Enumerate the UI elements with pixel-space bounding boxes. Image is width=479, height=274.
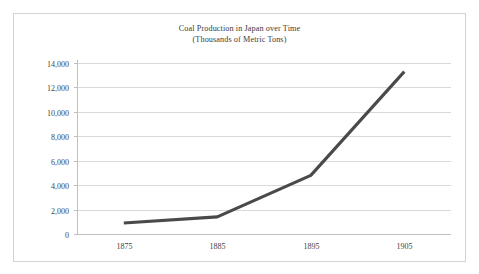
data-series-line	[124, 72, 405, 223]
y-tick-label: 4,000	[51, 182, 69, 191]
y-tick-label: 8,000	[51, 133, 69, 142]
y-tick-label: 6,000	[51, 158, 69, 167]
chart-container: Coal Production in Japan over Time (Thou…	[13, 13, 466, 262]
y-tick-label: 10,000	[47, 109, 69, 118]
chart-plot-area: 02,0004,0006,0008,00010,00012,00014,000 …	[14, 14, 467, 263]
y-tick-label: 2,000	[51, 207, 69, 216]
y-axis-labels: 02,0004,0006,0008,00010,00012,00014,000	[47, 60, 69, 240]
x-tick-label: 1885	[210, 242, 226, 251]
x-tick-label: 1895	[304, 242, 320, 251]
y-tick-label: 14,000	[47, 60, 69, 69]
x-tick-label: 1875	[117, 242, 133, 251]
x-tick-label: 1905	[397, 242, 413, 251]
gridlines	[77, 64, 451, 235]
y-tick-label: 0	[65, 231, 69, 240]
y-tick-label: 12,000	[47, 84, 69, 93]
x-axis-labels: 1875188518951905	[117, 242, 413, 251]
